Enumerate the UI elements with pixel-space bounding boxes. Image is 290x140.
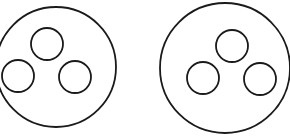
diagram-canvas: [0, 0, 290, 140]
left-group: [0, 7, 116, 127]
left-inner-circle-3: [59, 61, 91, 93]
right-group: [160, 3, 290, 133]
left-inner-circle-2: [2, 60, 34, 92]
left-inner-circle-1: [31, 28, 63, 60]
right-inner-circle-2: [187, 62, 219, 94]
right-inner-circle-1: [216, 30, 248, 62]
left-outer-circle: [0, 7, 116, 127]
right-inner-circle-3: [244, 63, 276, 95]
